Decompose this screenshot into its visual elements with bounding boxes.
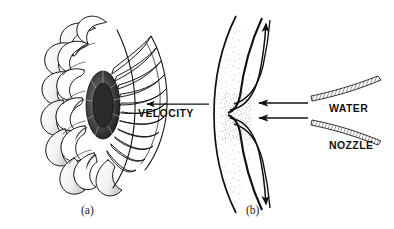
velocity-label: VELOCITY <box>138 108 194 119</box>
water-label: WATER <box>329 103 368 114</box>
caption-a: (a) <box>81 205 94 217</box>
nozzle-label: NOZZLE <box>329 140 373 151</box>
caption-b: (b) <box>246 205 259 217</box>
figure-drawing <box>0 0 394 229</box>
figure-root: VELOCITY WATER NOZZLE (a) (b) <box>0 0 394 229</box>
